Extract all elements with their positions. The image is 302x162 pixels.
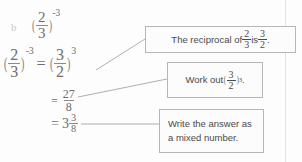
step3-fraction: 3 8 — [69, 113, 78, 135]
callout-1-frac1-denominator: 3 — [242, 39, 251, 50]
callout-work-out: Work out ( 3 2 ) 3 . — [167, 62, 263, 98]
left-paren-icon: ( — [50, 56, 53, 72]
worked-example-page: b ( 2 3 ) -3 ( 2 3 ) -3= ( 3 2 ) 3 — [0, 0, 302, 162]
callout-1-prefix: The reciprocal of — [171, 33, 242, 47]
step1-lhs-fraction: 2 3 — [8, 47, 20, 80]
item-letter: b — [11, 21, 17, 33]
left-paren-icon: ( — [4, 56, 7, 72]
leader-line-2 — [78, 79, 167, 97]
callout-1-fraction-1: 2 3 — [242, 29, 251, 50]
right-paren-icon: ) — [67, 56, 70, 72]
step1-rhs-denominator: 2 — [54, 63, 66, 80]
callout-2-numerator: 3 — [227, 70, 236, 80]
heading-exponent: -3 — [53, 9, 60, 18]
step2-fraction: 27 8 — [61, 88, 77, 113]
solution-step-2: = 27 8 — [48, 88, 77, 113]
left-paren-icon: ( — [224, 73, 226, 87]
step1-lhs-exponent: -3 — [26, 46, 34, 56]
step3-equals-sign: = — [48, 117, 62, 131]
solution-step-1: ( 2 3 ) -3= ( 3 2 ) 3 — [3, 47, 76, 80]
step1-rhs-exponent: 3 — [71, 46, 76, 56]
callout-mixed-number: Write the answer as a mixed number. — [159, 109, 264, 153]
callout-1-fraction-2: 3 2 — [258, 29, 267, 50]
callout-1-frac2-numerator: 3 — [258, 29, 267, 39]
heading-denominator: 3 — [36, 25, 48, 41]
step2-numerator: 27 — [61, 88, 77, 100]
right-paren-icon: ) — [21, 56, 24, 72]
callout-1-suffix: . — [267, 33, 270, 47]
callout-reciprocal: The reciprocal of 2 3 is 3 2 . — [145, 26, 296, 53]
step1-rhs-fraction: 3 2 — [54, 47, 66, 80]
left-paren-icon: ( — [32, 18, 35, 33]
step3-denominator: 8 — [69, 123, 78, 134]
callout-3-text: Write the answer as a mixed number. — [160, 117, 263, 145]
step3-numerator: 3 — [69, 113, 78, 123]
step1-equals-sign: = — [34, 56, 49, 72]
callout-2-prefix: Work out — [185, 73, 223, 87]
callout-1-frac2-denominator: 2 — [258, 39, 267, 50]
callout-3-line-2: a mixed number. — [168, 131, 238, 145]
solution-step-3: =3 3 8 — [48, 113, 78, 135]
step3-whole-number: 3 — [62, 117, 69, 131]
page-margin-rule — [285, 0, 286, 162]
callout-1-middle: is — [251, 33, 258, 47]
step1-lhs-denominator: 3 — [8, 63, 20, 80]
heading-numerator: 2 — [36, 10, 48, 25]
callout-2-parenthesized-fraction: ( 3 2 ) 3 — [223, 70, 242, 91]
step2-equals-sign: = — [48, 95, 61, 107]
callout-1-frac1-numerator: 2 — [242, 29, 251, 39]
callout-2-suffix: . — [242, 73, 245, 87]
heading-expression: ( 2 3 ) -3 — [31, 10, 60, 41]
step1-lhs-numerator: 2 — [8, 47, 20, 63]
callout-3-line-1: Write the answer as — [168, 117, 252, 131]
callout-2-denominator: 2 — [227, 80, 236, 91]
callout-2-text: Work out ( 3 2 ) 3 . — [185, 70, 244, 91]
callout-1-text: The reciprocal of 2 3 is 3 2 . — [171, 29, 269, 50]
leader-line-1 — [96, 39, 145, 70]
step1-rhs-parenthesized-fraction: ( 3 2 ) — [49, 47, 72, 80]
heading-fraction: 2 3 — [36, 10, 48, 41]
heading-parenthesized-fraction: ( 2 3 ) — [31, 10, 53, 41]
step1-rhs-numerator: 3 — [54, 47, 66, 63]
step1-lhs-parenthesized-fraction: ( 2 3 ) — [3, 47, 26, 80]
right-paren-icon: ) — [236, 73, 238, 87]
right-paren-icon: ) — [48, 18, 51, 33]
